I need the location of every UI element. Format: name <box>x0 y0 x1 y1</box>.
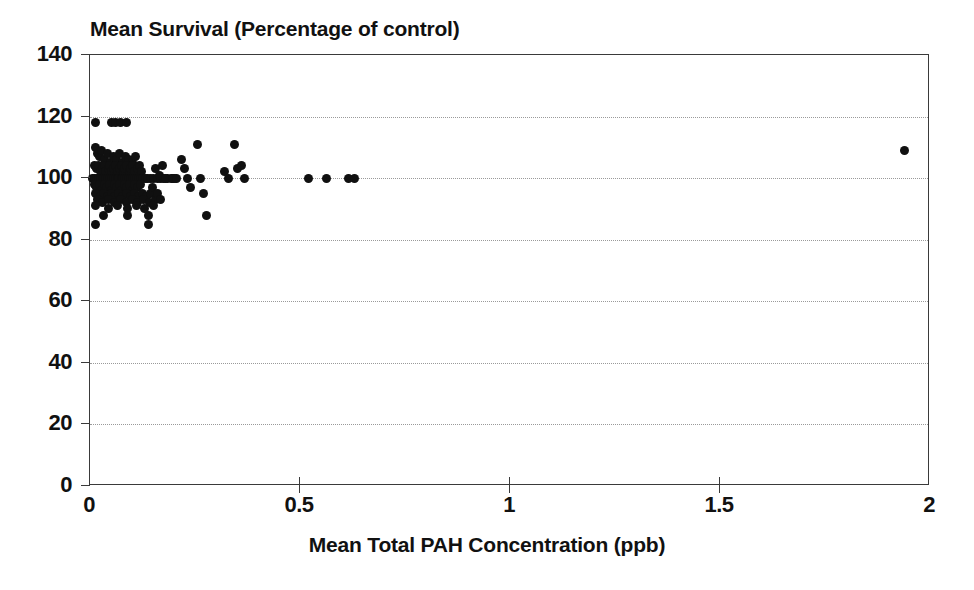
x-tick-label-2: 2 <box>923 492 935 518</box>
gridline-y-100 <box>90 178 928 179</box>
x-tick-inner-0.5 <box>299 477 300 485</box>
y-tick-label-80: 80 <box>0 226 72 252</box>
y-tick-label-140: 140 <box>0 41 72 67</box>
data-point <box>199 189 208 198</box>
y-tick-mark-120 <box>81 116 90 117</box>
data-point <box>122 118 131 127</box>
data-point <box>177 155 186 164</box>
y-tick-label-20: 20 <box>0 410 72 436</box>
data-point <box>113 201 122 210</box>
gridline-y-80 <box>90 240 928 241</box>
data-point <box>202 211 211 220</box>
y-tick-mark-40 <box>81 362 90 363</box>
data-point <box>180 164 189 173</box>
data-point <box>123 211 132 220</box>
data-point <box>230 140 239 149</box>
data-point <box>322 174 331 183</box>
data-point <box>136 180 145 189</box>
data-point <box>91 118 100 127</box>
data-point <box>224 174 233 183</box>
data-point <box>91 201 100 210</box>
data-point <box>350 174 359 183</box>
data-point <box>183 174 192 183</box>
y-tick-mark-20 <box>81 423 90 424</box>
data-point <box>237 161 246 170</box>
data-point <box>144 220 153 229</box>
data-point <box>304 174 313 183</box>
data-point <box>240 174 249 183</box>
y-tick-label-40: 40 <box>0 349 72 375</box>
scatter-plot-figure: Mean Survival (Percentage of control) 02… <box>0 0 974 590</box>
data-point <box>149 201 158 210</box>
x-tick-label-0: 0 <box>83 492 95 518</box>
data-point <box>193 140 202 149</box>
y-tick-label-100: 100 <box>0 164 72 190</box>
data-point <box>158 161 167 170</box>
x-axis-title: Mean Total PAH Concentration (ppb) <box>0 533 974 557</box>
data-point <box>156 195 165 204</box>
y-tick-mark-100 <box>81 177 90 178</box>
data-point <box>99 211 108 220</box>
plot-area <box>89 54 929 485</box>
x-tick-label-1.5: 1.5 <box>704 492 733 518</box>
y-tick-mark-80 <box>81 239 90 240</box>
x-tick-inner-1 <box>509 477 510 485</box>
y-tick-mark-60 <box>81 300 90 301</box>
gridline-y-20 <box>90 424 928 425</box>
x-tick-label-0.5: 0.5 <box>284 492 313 518</box>
x-tick-label-1: 1 <box>503 492 515 518</box>
gridline-y-120 <box>90 117 928 118</box>
gridline-y-60 <box>90 301 928 302</box>
x-tick-inner-1.5 <box>719 477 720 485</box>
y-tick-mark-0 <box>81 485 90 486</box>
data-point <box>186 183 195 192</box>
y-tick-mark-140 <box>81 54 90 55</box>
y-tick-label-60: 60 <box>0 287 72 313</box>
data-point <box>144 211 153 220</box>
y-tick-label-0: 0 <box>0 472 72 498</box>
y-tick-label-120: 120 <box>0 103 72 129</box>
gridline-y-40 <box>90 363 928 364</box>
data-point <box>196 174 205 183</box>
data-point <box>91 220 100 229</box>
data-point <box>131 152 140 161</box>
data-point <box>900 146 909 155</box>
data-point <box>172 174 181 183</box>
chart-title: Mean Survival (Percentage of control) <box>90 17 460 41</box>
